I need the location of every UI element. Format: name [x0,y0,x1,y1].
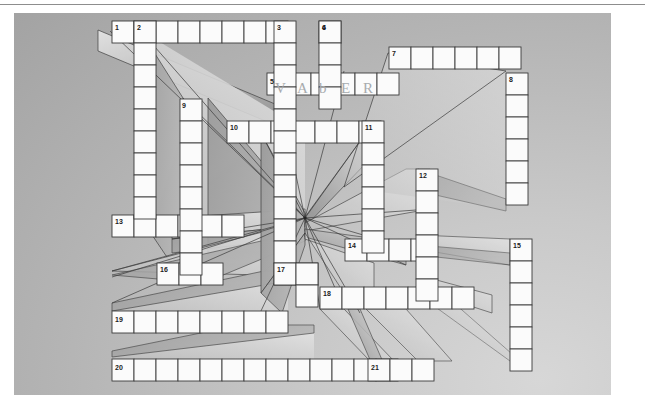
crossword-cell[interactable] [506,139,528,161]
crossword-cell[interactable] [178,311,200,333]
crossword-grid-svg [14,13,611,395]
crossword-cell[interactable] [386,287,408,309]
crossword-cell[interactable] [156,21,178,43]
crossword-cell[interactable] [134,175,156,197]
crossword-cell[interactable] [200,311,222,333]
crossword-cell[interactable] [244,359,266,381]
crossword-cell[interactable] [134,197,156,219]
crossword-cell[interactable] [389,239,411,261]
crossword-cell[interactable] [274,241,296,263]
crossword-cell[interactable] [416,191,438,213]
crossword-cell[interactable] [342,287,364,309]
crossword-cell[interactable] [452,287,474,309]
crossword-cell[interactable] [362,231,384,253]
crossword-cell[interactable] [288,359,310,381]
crossword-cell[interactable] [274,153,296,175]
crossword-cell[interactable] [390,359,412,381]
crossword-cell[interactable] [499,47,521,69]
crossword-cell[interactable] [274,219,296,241]
crossword-cell[interactable] [180,209,202,231]
crossword-cell[interactable] [506,183,528,205]
crossword-cell[interactable] [506,95,528,117]
crossword-cell[interactable] [266,359,288,381]
crossword-cell[interactable] [315,121,337,143]
page-root: 123456789101112131415161718192021 VAbER [0,0,645,409]
crossword-cell[interactable] [180,231,202,253]
crossword-cell[interactable] [416,279,438,301]
crossword-cell[interactable] [134,87,156,109]
crossword-cell[interactable] [156,215,178,237]
crossword-cell[interactable] [201,263,223,285]
crossword-cell[interactable] [362,143,384,165]
crossword-cell[interactable] [134,311,156,333]
crossword-cell[interactable] [266,311,288,333]
crossword-cell[interactable] [134,359,156,381]
crossword-cell[interactable] [274,131,296,153]
clue-number-2: 2 [137,24,141,32]
crossword-cell[interactable] [510,261,532,283]
crossword-cell[interactable] [156,359,178,381]
crossword-cell[interactable] [200,359,222,381]
clue-number-13: 13 [115,218,123,226]
crossword-cell[interactable] [244,21,266,43]
crossword-cell[interactable] [296,285,318,307]
crossword-cell[interactable] [362,187,384,209]
crossword-cell[interactable] [180,187,202,209]
crossword-cell[interactable] [134,153,156,175]
crossword-cell[interactable] [510,305,532,327]
crossword-cell[interactable] [274,175,296,197]
crossword-cell[interactable] [506,117,528,139]
crossword-cell[interactable] [178,21,200,43]
crossword-cell[interactable] [416,257,438,279]
clue-number-16: 16 [160,266,168,274]
crossword-cell[interactable] [411,47,433,69]
crossword-cell[interactable] [244,311,266,333]
crossword-cell[interactable] [222,215,244,237]
crossword-cell[interactable] [249,121,271,143]
crossword-cell[interactable] [180,143,202,165]
crossword-cell[interactable] [180,121,202,143]
crossword-cell[interactable] [416,235,438,257]
clue-number-19: 19 [115,316,123,324]
crossword-cell[interactable] [274,109,296,131]
clue-number-21: 21 [371,364,379,372]
crossword-cell[interactable] [180,165,202,187]
crossword-cell[interactable] [222,21,244,43]
crossword-cell[interactable] [319,43,341,65]
crossword-cell[interactable] [506,161,528,183]
crossword-cell[interactable] [274,197,296,219]
crossword-cell[interactable] [134,65,156,87]
clue-number-11: 11 [365,124,372,132]
crossword-cell[interactable] [156,311,178,333]
crossword-cell[interactable] [134,131,156,153]
crossword-cell[interactable] [134,43,156,65]
crossword-cell[interactable] [200,21,222,43]
crossword-cell[interactable] [337,121,359,143]
crossword-cell[interactable] [274,43,296,65]
crossword-cell[interactable] [178,359,200,381]
clue-number-14: 14 [348,242,356,250]
crossword-cell[interactable] [364,287,386,309]
crossword-cell[interactable] [362,209,384,231]
crossword-cell[interactable] [222,311,244,333]
crossword-cell[interactable] [310,359,332,381]
crossword-cell[interactable] [222,359,244,381]
crossword-cell[interactable] [180,253,202,275]
crossword-cell[interactable] [433,47,455,69]
crossword-cell[interactable] [412,359,434,381]
crossword-cell[interactable] [296,263,318,285]
answer-letter: R [363,80,373,96]
crossword-cell[interactable] [455,47,477,69]
crossword-cell[interactable] [510,349,532,371]
clue-number-15: 15 [513,242,521,250]
crossword-cell[interactable] [477,47,499,69]
crossword-cell[interactable] [332,359,354,381]
crossword-cell[interactable] [416,213,438,235]
crossword-cell[interactable] [200,215,222,237]
crossword-cell[interactable] [134,109,156,131]
crossword-cell[interactable] [377,73,399,95]
crossword-cell[interactable] [510,327,532,349]
crossword-cell[interactable] [510,283,532,305]
crossword-cell[interactable] [362,165,384,187]
crossword-illustration-panel: 123456789101112131415161718192021 VAbER [14,13,611,395]
